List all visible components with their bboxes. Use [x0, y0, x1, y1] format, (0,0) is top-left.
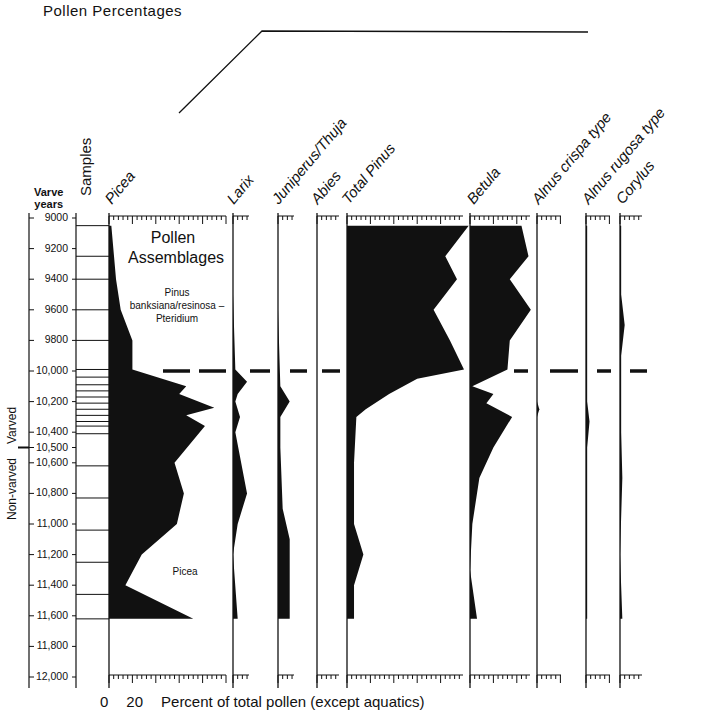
y-tick-label: 10,000: [22, 364, 68, 376]
upper-zone-line1: Pinus: [122, 286, 232, 299]
y-tick-label: 9800: [22, 333, 68, 345]
y-tick-label: 10,800: [22, 486, 68, 498]
x-axis-title: Percent of total pollen (except aquatics…: [161, 693, 424, 710]
series-betula: [470, 226, 531, 619]
nonvarved-label: Non-varved: [5, 458, 19, 520]
y-tick-label: 11,000: [22, 517, 68, 529]
series-alnus-rugosa-type: [586, 226, 590, 619]
y-axis-header: Varve years: [34, 186, 63, 210]
assemblages-line1: Pollen: [128, 228, 218, 248]
y-tick-label: 11,600: [22, 609, 68, 621]
lower-zone-label: Picea: [160, 566, 210, 577]
varved-label: Varved: [5, 407, 19, 444]
y-tick-label: 9400: [22, 272, 68, 284]
chart-title: Pollen Percentages: [43, 2, 182, 19]
series-alnus-crispa-type: [537, 402, 539, 417]
y-tick-label: 11,400: [22, 578, 68, 590]
assemblage-bracket: [179, 31, 588, 113]
y-tick-label: 9600: [22, 303, 68, 315]
y-header-line2: years: [34, 198, 63, 210]
samples-label: Samples: [77, 138, 94, 196]
x-tick-20: 20: [126, 693, 143, 710]
x-tick-0: 0: [100, 693, 108, 710]
y-tick-label: 10,600: [22, 456, 68, 468]
series-larix: [233, 295, 247, 619]
series-total-pinus: [347, 226, 469, 619]
y-tick-label: 10,400: [22, 425, 68, 437]
y-tick-label: 12,000: [22, 670, 68, 682]
y-tick-label: 10,500: [22, 441, 68, 453]
assemblages-line2: Assemblages: [128, 248, 218, 268]
upper-zone-label: Pinus banksiana/resinosa – Pteridium: [122, 286, 232, 325]
pollen-diagram: [0, 0, 711, 721]
upper-zone-line3: Pteridium: [122, 312, 232, 325]
x-axis-label: 020Percent of total pollen (except aquat…: [100, 693, 425, 710]
y-tick-label: 11,200: [22, 548, 68, 560]
upper-zone-line2: banksiana/resinosa –: [122, 299, 232, 312]
series-corylus: [620, 226, 625, 619]
y-tick-label: 9000: [22, 211, 68, 223]
y-tick-label: 9200: [22, 242, 68, 254]
y-tick-label: 10,200: [22, 395, 68, 407]
series-juniperus-thuja: [278, 310, 290, 619]
series-picea: [109, 226, 214, 619]
y-header-line1: Varve: [34, 186, 63, 198]
assemblages-heading: Pollen Assemblages: [128, 228, 218, 268]
y-tick-label: 11,800: [22, 639, 68, 651]
